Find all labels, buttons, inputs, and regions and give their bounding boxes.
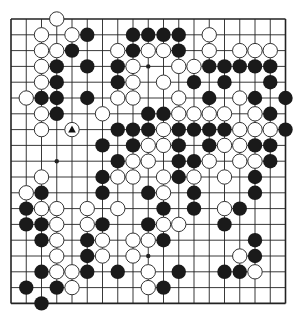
black-stone[interactable] (34, 265, 48, 279)
black-stone[interactable] (263, 154, 277, 168)
black-stone[interactable] (187, 186, 201, 200)
black-stone[interactable] (187, 75, 201, 89)
white-stone[interactable] (50, 217, 64, 231)
black-stone[interactable] (248, 91, 262, 105)
black-stone[interactable] (278, 91, 292, 105)
white-stone[interactable] (141, 233, 155, 247)
white-stone[interactable] (34, 107, 48, 121)
white-stone[interactable] (248, 265, 262, 279)
go-board[interactable] (0, 0, 299, 316)
black-stone[interactable] (217, 75, 231, 89)
black-stone[interactable] (217, 265, 231, 279)
white-stone[interactable] (233, 43, 247, 57)
black-stone[interactable] (111, 154, 125, 168)
white-stone[interactable] (217, 201, 231, 215)
black-stone[interactable] (50, 107, 64, 121)
white-stone[interactable] (126, 75, 140, 89)
white-stone[interactable] (95, 249, 109, 263)
black-stone[interactable] (263, 75, 277, 89)
white-stone[interactable] (156, 217, 170, 231)
white-stone[interactable] (50, 249, 64, 263)
black-stone[interactable] (187, 154, 201, 168)
white-stone[interactable] (187, 107, 201, 121)
white-stone[interactable] (141, 280, 155, 294)
black-stone[interactable] (141, 186, 155, 200)
white-stone[interactable] (156, 122, 170, 136)
black-stone[interactable] (95, 170, 109, 184)
black-stone[interactable] (50, 280, 64, 294)
white-stone[interactable] (202, 28, 216, 42)
white-stone[interactable] (187, 59, 201, 73)
white-stone[interactable] (248, 154, 262, 168)
black-stone[interactable] (233, 265, 247, 279)
black-stone[interactable] (202, 138, 216, 152)
white-stone[interactable] (233, 138, 247, 152)
black-stone[interactable] (248, 138, 262, 152)
white-stone[interactable] (34, 122, 48, 136)
white-stone[interactable] (111, 43, 125, 57)
white-stone[interactable] (65, 280, 79, 294)
white-stone[interactable] (80, 217, 94, 231)
white-stone[interactable] (172, 91, 186, 105)
white-stone[interactable] (233, 249, 247, 263)
black-stone[interactable] (95, 186, 109, 200)
white-stone[interactable] (50, 12, 64, 26)
white-stone[interactable] (156, 75, 170, 89)
black-stone[interactable] (19, 201, 33, 215)
white-stone[interactable] (248, 122, 262, 136)
white-stone[interactable] (217, 107, 231, 121)
black-stone[interactable] (34, 296, 48, 310)
black-stone[interactable] (65, 43, 79, 57)
white-stone[interactable] (34, 75, 48, 89)
white-stone[interactable] (50, 201, 64, 215)
black-stone[interactable] (278, 122, 292, 136)
black-stone[interactable] (172, 265, 186, 279)
black-stone[interactable] (217, 217, 231, 231)
white-stone[interactable] (95, 107, 109, 121)
black-stone[interactable] (156, 107, 170, 121)
black-stone[interactable] (111, 75, 125, 89)
white-stone[interactable] (111, 201, 125, 215)
black-stone[interactable] (111, 265, 125, 279)
white-stone[interactable] (111, 91, 125, 105)
white-stone[interactable] (187, 170, 201, 184)
black-stone[interactable] (95, 217, 109, 231)
white-stone[interactable] (34, 170, 48, 184)
white-stone[interactable] (141, 265, 155, 279)
white-stone[interactable] (19, 91, 33, 105)
black-stone[interactable] (80, 233, 94, 247)
black-stone[interactable] (233, 201, 247, 215)
black-stone[interactable] (156, 280, 170, 294)
black-stone[interactable] (202, 91, 216, 105)
white-stone[interactable] (202, 107, 216, 121)
white-stone[interactable] (263, 43, 277, 57)
black-stone[interactable] (50, 75, 64, 89)
black-stone[interactable] (248, 170, 262, 184)
white-stone[interactable] (233, 91, 247, 105)
white-stone[interactable] (34, 201, 48, 215)
white-stone[interactable] (141, 138, 155, 152)
black-stone[interactable] (233, 59, 247, 73)
white-stone[interactable] (50, 43, 64, 57)
black-stone[interactable] (111, 59, 125, 73)
white-stone[interactable] (50, 265, 64, 279)
white-stone[interactable] (263, 122, 277, 136)
white-stone[interactable] (95, 233, 109, 247)
white-stone[interactable] (19, 186, 33, 200)
black-stone[interactable] (248, 249, 262, 263)
black-stone[interactable] (95, 138, 109, 152)
white-stone[interactable] (50, 233, 64, 247)
white-stone[interactable] (248, 107, 262, 121)
black-stone[interactable] (156, 233, 170, 247)
black-stone[interactable] (126, 138, 140, 152)
black-stone[interactable] (263, 138, 277, 152)
black-stone[interactable] (34, 186, 48, 200)
black-stone[interactable] (187, 201, 201, 215)
black-stone[interactable] (126, 122, 140, 136)
black-stone[interactable] (141, 122, 155, 136)
black-stone[interactable] (19, 280, 33, 294)
black-stone[interactable] (156, 28, 170, 42)
black-stone[interactable] (80, 91, 94, 105)
white-stone[interactable] (172, 59, 186, 73)
black-stone[interactable] (248, 59, 262, 73)
